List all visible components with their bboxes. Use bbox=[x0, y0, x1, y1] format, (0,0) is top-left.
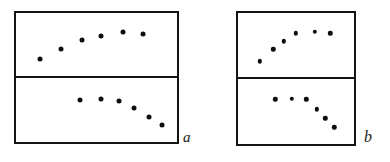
data-point bbox=[313, 30, 317, 34]
panel-b-top bbox=[238, 13, 354, 79]
data-point bbox=[121, 29, 126, 34]
data-point bbox=[271, 47, 275, 51]
data-point bbox=[304, 97, 308, 101]
data-point bbox=[140, 31, 145, 36]
data-point bbox=[290, 96, 294, 100]
data-point bbox=[160, 123, 165, 128]
data-point bbox=[315, 107, 319, 111]
data-point bbox=[98, 97, 103, 102]
panel-group-a-label: a bbox=[183, 130, 191, 145]
panel-group-b-label: b bbox=[364, 129, 372, 145]
data-point bbox=[332, 125, 336, 129]
figure-root: a b bbox=[0, 0, 390, 162]
panel-a-bottom bbox=[16, 78, 177, 143]
data-point bbox=[323, 116, 327, 120]
data-point bbox=[146, 114, 151, 119]
data-point bbox=[131, 105, 136, 110]
data-point bbox=[98, 34, 103, 39]
data-point bbox=[58, 46, 63, 51]
panel-group-b bbox=[236, 11, 356, 146]
data-point bbox=[294, 31, 298, 35]
panel-b-bottom bbox=[238, 79, 354, 145]
data-point bbox=[273, 97, 277, 101]
panel-group-a bbox=[14, 11, 179, 144]
data-point bbox=[79, 38, 84, 43]
data-point bbox=[257, 59, 261, 63]
data-point bbox=[328, 31, 332, 35]
data-point bbox=[116, 99, 121, 104]
panel-a-top bbox=[16, 13, 177, 78]
data-point bbox=[281, 39, 285, 43]
data-point bbox=[78, 98, 83, 103]
data-point bbox=[37, 57, 42, 62]
